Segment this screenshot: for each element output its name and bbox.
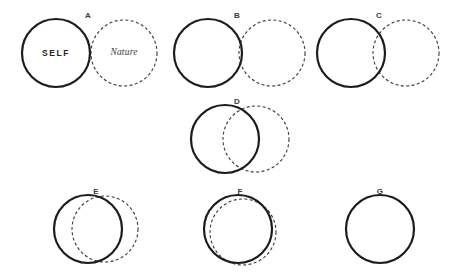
venn-item-e xyxy=(54,195,138,263)
venn-item-d xyxy=(191,105,289,173)
item-label-d: D xyxy=(230,97,244,107)
venn-item-g xyxy=(346,195,414,263)
self-circle-g xyxy=(346,195,414,263)
item-label-e: E xyxy=(89,187,103,197)
item-label-c: C xyxy=(372,11,386,21)
item-label-f: F xyxy=(233,187,247,197)
nature-circle-c xyxy=(373,20,439,86)
item-label-a: A xyxy=(81,11,95,21)
self-circle-d xyxy=(191,105,259,173)
nature-circle-b xyxy=(239,20,305,86)
nature-circle-d xyxy=(223,106,289,172)
nature-circle-e xyxy=(72,196,138,262)
self-circle-b xyxy=(174,19,242,87)
item-label-g: G xyxy=(373,187,387,197)
venn-item-b xyxy=(174,19,305,87)
venn-diagram-canvas xyxy=(0,0,457,280)
venn-item-c xyxy=(317,19,439,87)
venn-item-f xyxy=(204,195,276,265)
nature-label-text: Nature xyxy=(84,47,164,57)
self-circle-f xyxy=(204,195,272,263)
self-circle-c xyxy=(317,19,385,87)
item-label-b: B xyxy=(230,11,244,21)
self-circle-e xyxy=(54,195,122,263)
